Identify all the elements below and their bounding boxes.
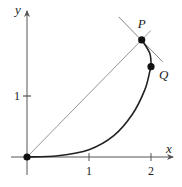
axis-ticks: 121 (14, 89, 154, 178)
x-tick-label-2: 2 (148, 164, 154, 178)
point-label-Q: Q (159, 67, 169, 82)
chord-line (27, 31, 151, 157)
y-axis-label: y (13, 2, 21, 17)
y-tick-label-1: 1 (14, 89, 20, 103)
point-label-P: P (137, 16, 146, 31)
curve (27, 40, 151, 157)
point-P (138, 36, 145, 43)
point-O (23, 153, 30, 160)
x-axis-label: x (165, 141, 172, 156)
diagram-canvas: 121 PQ x y (0, 0, 182, 187)
point-Q (147, 63, 154, 70)
x-tick-label-1: 1 (86, 164, 92, 178)
